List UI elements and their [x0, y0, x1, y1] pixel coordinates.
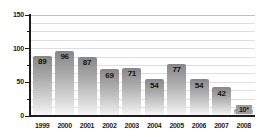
- bar-value-label: 10*: [236, 105, 252, 114]
- bar-value-label: 87: [78, 59, 97, 67]
- gridline: [31, 48, 255, 49]
- y-tick-label: 0: [4, 112, 24, 119]
- x-tick-label: 2002: [98, 122, 120, 129]
- x-tick-label: 2001: [76, 122, 98, 129]
- gridline: [31, 40, 255, 41]
- x-axis-line: [29, 115, 255, 117]
- gridline: [31, 31, 255, 32]
- x-tick-label: 2004: [143, 122, 165, 129]
- bar-value-label: 54: [190, 82, 209, 90]
- x-tick-label: 2008: [233, 122, 255, 129]
- bar-value-label: 77: [167, 66, 186, 74]
- gridline: [31, 23, 255, 24]
- x-tick-label: 2000: [53, 122, 75, 129]
- bar-value-label: 42: [212, 90, 231, 98]
- y-tick-label: 100: [4, 45, 24, 52]
- bar-value-label: 89: [33, 58, 52, 66]
- bar-value-label: 69: [100, 72, 119, 80]
- x-tick-label: 2005: [165, 122, 187, 129]
- bar-value-label: 96: [55, 53, 74, 61]
- x-tick-label: 2007: [210, 122, 232, 129]
- x-tick-label: 1999: [31, 122, 53, 129]
- bar-value-label: 54: [145, 82, 164, 90]
- x-tick-label: 2006: [188, 122, 210, 129]
- x-tick-label: 2003: [121, 122, 143, 129]
- bar-value-label: 71: [122, 70, 141, 78]
- gridline: [31, 15, 255, 16]
- bar-chart: 0501001508919999620008720016920027120035…: [0, 0, 258, 137]
- y-axis-line: [29, 14, 31, 118]
- y-tick-label: 150: [4, 11, 24, 18]
- y-tick-label: 50: [4, 78, 24, 85]
